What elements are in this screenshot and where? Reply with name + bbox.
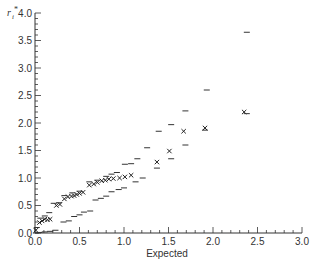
- observed-point-x-marker: [203, 126, 207, 130]
- x-tick-label: 0.5: [73, 236, 87, 247]
- y-tick-label: 0.0: [18, 228, 32, 239]
- observed-point-x-marker: [181, 129, 185, 133]
- x-tick-label: 3.0: [295, 236, 309, 247]
- y-tick-label: 4.0: [18, 8, 32, 19]
- observed-point-x-marker: [54, 203, 58, 207]
- y-tick-label: 0.5: [18, 200, 32, 211]
- y-axis-title-sub: i: [12, 13, 14, 21]
- x-tick-label: 2.5: [251, 236, 265, 247]
- observed-point-x-marker: [107, 177, 111, 181]
- data-points: [33, 32, 250, 233]
- y-tick-label: 3.5: [18, 35, 32, 46]
- observed-point-x-marker: [155, 160, 159, 164]
- y-tick-label: 2.0: [18, 118, 32, 129]
- x-tick-label: 1.5: [162, 236, 176, 247]
- y-axis-title-main: r: [7, 7, 11, 18]
- axes: 0.00.51.01.52.02.53.00.00.51.01.52.02.53…: [18, 8, 309, 248]
- y-tick-label: 3.0: [18, 63, 32, 74]
- x-tick-label: 2.0: [206, 236, 220, 247]
- x-tick-label: 1.0: [117, 236, 131, 247]
- observed-point-x-marker: [117, 176, 121, 180]
- y-tick-label: 1.5: [18, 145, 32, 156]
- observed-point-x-marker: [111, 176, 115, 180]
- y-axis-title: r i *: [7, 5, 18, 21]
- y-axis-title-sup: *: [14, 5, 18, 14]
- y-tick-label: 1.0: [18, 173, 32, 184]
- observed-point-x-marker: [129, 173, 133, 177]
- observed-point-x-marker: [34, 228, 38, 232]
- x-axis-title: Expected: [146, 248, 188, 259]
- observed-point-x-marker: [123, 175, 127, 179]
- y-tick-label: 2.5: [18, 90, 32, 101]
- observed-point-x-marker: [103, 178, 107, 182]
- scatter-chart: 0.00.51.01.52.02.53.00.00.51.01.52.02.53…: [0, 0, 311, 267]
- observed-point-x-marker: [87, 183, 91, 187]
- observed-point-x-marker: [167, 149, 171, 153]
